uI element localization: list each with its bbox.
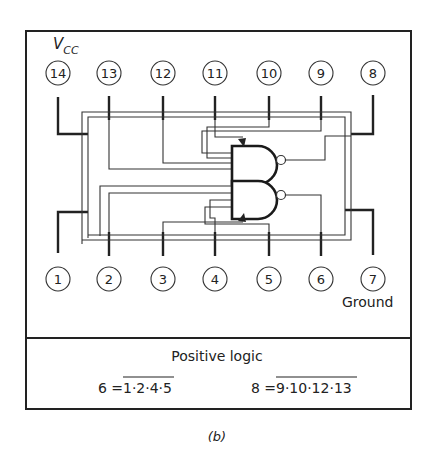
pin-11: 11 xyxy=(203,61,227,85)
svg-text:9: 9 xyxy=(317,66,325,81)
svg-text:1: 1 xyxy=(54,272,62,287)
svg-text:6 =: 6 = xyxy=(98,380,123,396)
svg-text:6: 6 xyxy=(317,272,325,287)
pin8-lead xyxy=(351,95,373,134)
pin-4: 4 xyxy=(203,267,227,291)
svg-text:3: 3 xyxy=(159,272,167,287)
pin-8: 8 xyxy=(361,61,385,85)
svg-text:9·10·12·13: 9·10·12·13 xyxy=(276,380,352,396)
svg-text:10: 10 xyxy=(261,66,278,81)
ground-label: Ground xyxy=(342,294,394,310)
pin-5: 5 xyxy=(257,267,281,291)
pin7-lead xyxy=(345,210,373,255)
bottom-pins: 1 2 3 4 5 6 7 xyxy=(46,267,385,291)
pin-1: 1 xyxy=(46,267,70,291)
svg-text:12: 12 xyxy=(155,66,172,81)
svg-text:14: 14 xyxy=(50,66,67,81)
vcc-label: VCC xyxy=(53,35,79,57)
figure-caption: (b) xyxy=(208,429,226,444)
svg-text:5: 5 xyxy=(265,272,273,287)
pin-6: 6 xyxy=(309,267,333,291)
pin-10: 10 xyxy=(257,61,281,85)
svg-text:8 =: 8 = xyxy=(251,380,276,396)
pin1-lead xyxy=(58,212,88,253)
svg-text:4: 4 xyxy=(211,272,219,287)
svg-text:8: 8 xyxy=(369,66,377,81)
svg-text:1·2·4·5: 1·2·4·5 xyxy=(123,380,172,396)
pin-9: 9 xyxy=(309,61,333,85)
wiring xyxy=(58,95,373,256)
top-pins: 14 13 12 11 10 9 8 xyxy=(46,61,385,85)
pin-12: 12 xyxy=(151,61,175,85)
dual-nand-pinout-diagram: VCC 14 13 12 11 10 9 8 1 2 3 4 5 6 7 Gro… xyxy=(0,0,435,464)
pin-2: 2 xyxy=(97,267,121,291)
positive-logic-heading: Positive logic xyxy=(171,348,262,364)
pin-13: 13 xyxy=(97,61,121,85)
inversion-bubble xyxy=(277,156,286,165)
svg-text:2: 2 xyxy=(105,272,113,287)
nand-gate-lower xyxy=(232,181,286,222)
nand-gate-upper xyxy=(232,138,286,184)
inversion-bubble xyxy=(277,191,286,200)
vcc-lead xyxy=(58,97,88,134)
svg-text:13: 13 xyxy=(101,66,118,81)
svg-text:7: 7 xyxy=(369,272,377,287)
pin-3: 3 xyxy=(151,267,175,291)
equation-6: 6 = 1·2·4·5 xyxy=(98,377,174,396)
pin-14: 14 xyxy=(46,61,70,85)
pin-7: 7 xyxy=(361,267,385,291)
equation-8: 8 = 9·10·12·13 xyxy=(251,377,357,396)
svg-text:11: 11 xyxy=(207,66,224,81)
